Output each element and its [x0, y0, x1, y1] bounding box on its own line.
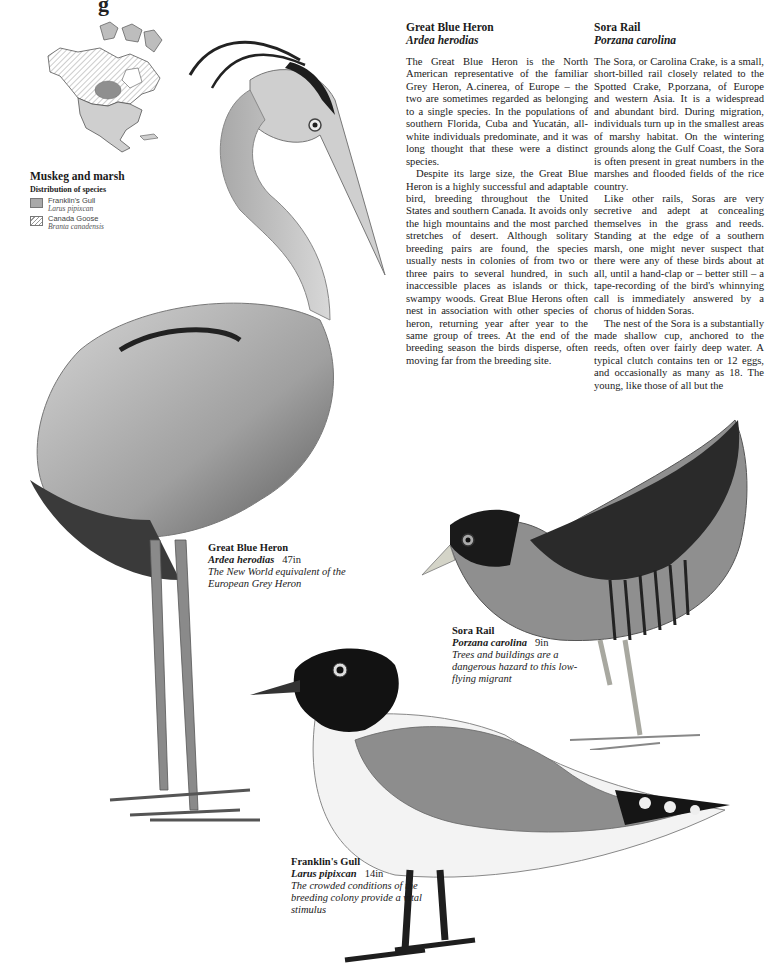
- article-great-blue-heron: Great Blue Heron Ardea herodias The Grea…: [406, 21, 588, 367]
- size-label: 14in: [365, 868, 384, 879]
- article-paragraph: Despite its large size, the Great Blue H…: [406, 168, 588, 367]
- page-heading-fragment: g: [98, 0, 109, 17]
- caption-sora-rail: Sora Rail Porzana carolina9in Trees and …: [452, 625, 592, 685]
- article-paragraph: The Great Blue Heron is the North Americ…: [406, 56, 588, 168]
- article-latin-name: Porzana carolina: [594, 34, 764, 47]
- article-sora-rail: Sora Rail Porzana carolina The Sora, or …: [594, 21, 764, 392]
- article-title: Sora Rail: [594, 21, 764, 34]
- caption-franklins-gull: Franklin's Gull Larus pipixcan14in The c…: [291, 856, 441, 916]
- article-paragraph: The nest of the Sora is a substan­tially…: [594, 318, 764, 393]
- article-title: Great Blue Heron: [406, 21, 588, 34]
- article-latin-name: Ardea herodias: [406, 34, 588, 47]
- article-paragraph: Like other rails, Soras are very secreti…: [594, 193, 764, 318]
- franklins-gull-illustration: [245, 640, 735, 971]
- caption-great-blue-heron: Great Blue Heron Ardea herodias47in The …: [208, 542, 358, 590]
- article-paragraph: The Sora, or Carolina Crake, is a small,…: [594, 56, 764, 193]
- size-label: 9in: [535, 637, 548, 648]
- gull-icon: [245, 640, 735, 971]
- size-label: 47in: [282, 554, 301, 565]
